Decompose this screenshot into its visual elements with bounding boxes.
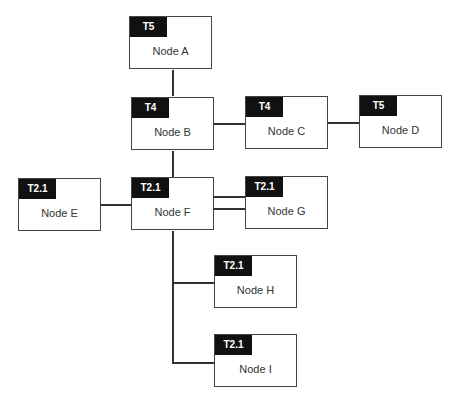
node-tag: T5 (360, 96, 397, 116)
node-d[interactable]: T5 Node D (359, 95, 442, 148)
edge-f-trunk (172, 231, 174, 364)
node-label: Node D (360, 124, 441, 136)
node-label: Node B (132, 126, 213, 138)
node-a[interactable]: T5 Node A (129, 16, 212, 69)
edge-f-i (172, 362, 214, 364)
node-label: Node E (19, 207, 100, 219)
node-tag: T2.1 (215, 335, 252, 355)
edge-f-h (172, 282, 214, 284)
node-label: Node I (215, 363, 296, 375)
edge-f-g-upper (214, 196, 245, 198)
node-i[interactable]: T2.1 Node I (214, 334, 297, 387)
node-tag: T2.1 (132, 178, 169, 198)
node-tag: T5 (130, 17, 167, 37)
node-label: Node C (246, 125, 327, 137)
edge-a-b (172, 70, 174, 96)
node-tag: T2.1 (246, 177, 283, 197)
edge-c-d (328, 122, 359, 124)
node-c[interactable]: T4 Node C (245, 96, 328, 149)
node-tag: T4 (246, 97, 283, 117)
node-label: Node A (130, 45, 211, 57)
node-label: Node F (132, 206, 213, 218)
node-f[interactable]: T2.1 Node F (131, 177, 214, 230)
node-tag: T4 (132, 98, 169, 118)
node-e[interactable]: T2.1 Node E (18, 178, 101, 231)
edge-e-f (101, 204, 131, 206)
node-b[interactable]: T4 Node B (131, 97, 214, 150)
node-tag: T2.1 (215, 256, 252, 276)
edge-b-f (172, 151, 174, 177)
node-g[interactable]: T2.1 Node G (245, 176, 328, 229)
node-label: Node H (215, 284, 296, 296)
edge-f-g-lower (214, 208, 245, 210)
node-tag: T2.1 (19, 179, 56, 199)
edge-b-c (214, 123, 245, 125)
node-h[interactable]: T2.1 Node H (214, 255, 297, 308)
node-label: Node G (246, 205, 327, 217)
